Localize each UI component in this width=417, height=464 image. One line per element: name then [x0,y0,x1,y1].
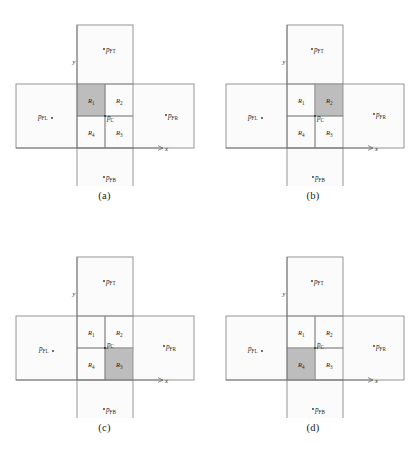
far-left-point-marker [52,350,54,352]
panel-a: y x R1 R2 R3 R4 pC [0,0,209,232]
y-axis-label: y [72,290,76,297]
far-right-point-marker [165,114,167,116]
panel-d: y x R1 R2 R3 R4 pC pFT [209,232,417,464]
y-axis-label: y [282,58,286,65]
panel-a-canvas: y x R1 R2 R3 R4 pC [0,0,209,186]
far-right-point-marker [163,345,165,347]
far-right-point-marker [373,113,375,115]
center-point-marker [314,347,316,349]
x-axis-label: x [374,377,378,384]
x-axis-label: x [374,145,378,152]
x-axis-label: x [164,377,168,384]
panel-c: y x R1 R2 R3 R4 pC pFT [0,232,209,464]
panel-c-caption: (c) [0,422,209,433]
panel-b-canvas: y x R1 R2 R3 R4 pC pFT [209,0,417,186]
center-point-marker [314,115,316,117]
y-axis-label: y [282,290,286,297]
panel-b-caption: (b) [209,190,417,201]
far-bottom-point-marker [103,408,105,410]
far-left-point-marker [261,117,263,119]
far-bottom-point-marker [312,408,314,410]
far-left-point-marker [51,117,53,119]
far-top-point-marker [311,280,313,282]
panel-a-caption: (a) [0,190,209,201]
center-point-marker [104,115,106,117]
panel-c-canvas: y x R1 R2 R3 R4 pC pFT [0,232,209,418]
panel-b: y x R1 R2 R3 R4 pC pFT [209,0,417,232]
far-top-point-marker [103,48,105,50]
y-axis-label: y [72,58,76,65]
figure-panel-grid: y x R1 R2 R3 R4 pC [0,0,417,464]
panel-d-caption: (d) [209,422,417,433]
panel-d-canvas: y x R1 R2 R3 R4 pC pFT [209,232,417,418]
x-axis-label: x [164,145,168,152]
far-bottom-point-marker [103,176,105,178]
far-top-point-marker [311,48,313,50]
center-point-marker [104,347,106,349]
far-left-point-marker [261,350,263,352]
far-top-point-marker [103,280,105,282]
far-bottom-point-marker [312,176,314,178]
far-right-point-marker [373,345,375,347]
